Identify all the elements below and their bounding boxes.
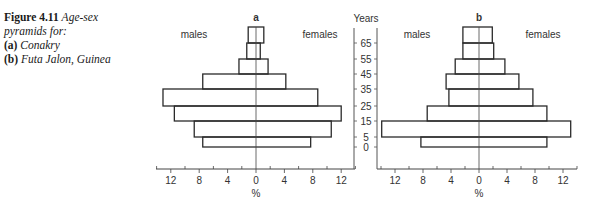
age-bar bbox=[421, 137, 547, 147]
age-bar bbox=[203, 74, 286, 89]
x-tick-label: 12 bbox=[389, 175, 401, 186]
percent-label: % bbox=[475, 188, 484, 199]
males-label: males bbox=[404, 29, 431, 40]
age-bar bbox=[203, 137, 311, 147]
x-tick-label: 12 bbox=[336, 175, 348, 186]
age-bar bbox=[449, 89, 533, 106]
age-tick-label: 65 bbox=[360, 38, 372, 49]
x-tick-label: 12 bbox=[557, 175, 569, 186]
years-axis: Years65554535251550 bbox=[353, 13, 378, 169]
females-label: females bbox=[302, 29, 337, 40]
age-tick-label: 0 bbox=[363, 142, 369, 153]
x-tick-label: 4 bbox=[504, 175, 510, 186]
age-bar bbox=[174, 106, 341, 121]
x-tick-label: 0 bbox=[476, 175, 482, 186]
x-tick-label: 4 bbox=[448, 175, 454, 186]
pyramid-charts: amalesfemales128404812%bmalesfemales1284… bbox=[0, 0, 594, 209]
age-tick-label: 35 bbox=[360, 84, 372, 95]
x-tick-label: 8 bbox=[420, 175, 426, 186]
x-tick-label: 0 bbox=[253, 175, 259, 186]
pyramid-chart-b: bmalesfemales128404812% bbox=[377, 12, 577, 199]
age-bar bbox=[427, 106, 547, 121]
age-tick-label: 45 bbox=[360, 69, 372, 80]
chart-title: b bbox=[476, 12, 482, 23]
age-bar bbox=[463, 43, 494, 59]
age-bar bbox=[239, 59, 268, 74]
females-label: females bbox=[525, 29, 560, 40]
x-tick-label: 8 bbox=[310, 175, 316, 186]
age-tick-label: 55 bbox=[360, 54, 372, 65]
age-bar bbox=[382, 121, 571, 137]
x-tick-label: 4 bbox=[225, 175, 231, 186]
males-label: males bbox=[181, 29, 208, 40]
x-tick-label: 8 bbox=[532, 175, 538, 186]
years-label: Years bbox=[353, 13, 378, 24]
x-tick-label: 12 bbox=[165, 175, 177, 186]
age-bar bbox=[455, 59, 505, 74]
percent-label: % bbox=[252, 188, 261, 199]
age-bar bbox=[446, 74, 519, 89]
chart-title: a bbox=[253, 12, 259, 23]
age-bar bbox=[194, 121, 331, 137]
age-tick-label: 25 bbox=[360, 101, 372, 112]
age-bar bbox=[163, 89, 318, 106]
age-bar bbox=[247, 43, 260, 59]
age-tick-label: 15 bbox=[360, 116, 372, 127]
x-tick-label: 4 bbox=[282, 175, 288, 186]
pyramid-chart-a: amalesfemales128404812% bbox=[156, 12, 355, 199]
x-tick-label: 8 bbox=[196, 175, 202, 186]
age-bar bbox=[463, 27, 492, 43]
